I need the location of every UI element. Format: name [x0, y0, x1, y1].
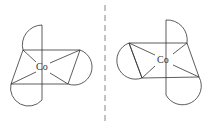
right-chelate-left — [117, 43, 142, 79]
right-co-label: Co — [157, 54, 169, 65]
right-chelate-top — [166, 20, 187, 43]
left-enantiomer — [11, 25, 92, 106]
left-co-label: Co — [36, 61, 48, 72]
enantiomer-diagram: Co Co — [0, 0, 209, 129]
right-chelate-bottom — [166, 77, 201, 105]
left-chelate-top — [22, 25, 42, 50]
left-chelate-bottom — [11, 84, 42, 106]
left-chelate-right — [68, 50, 92, 85]
